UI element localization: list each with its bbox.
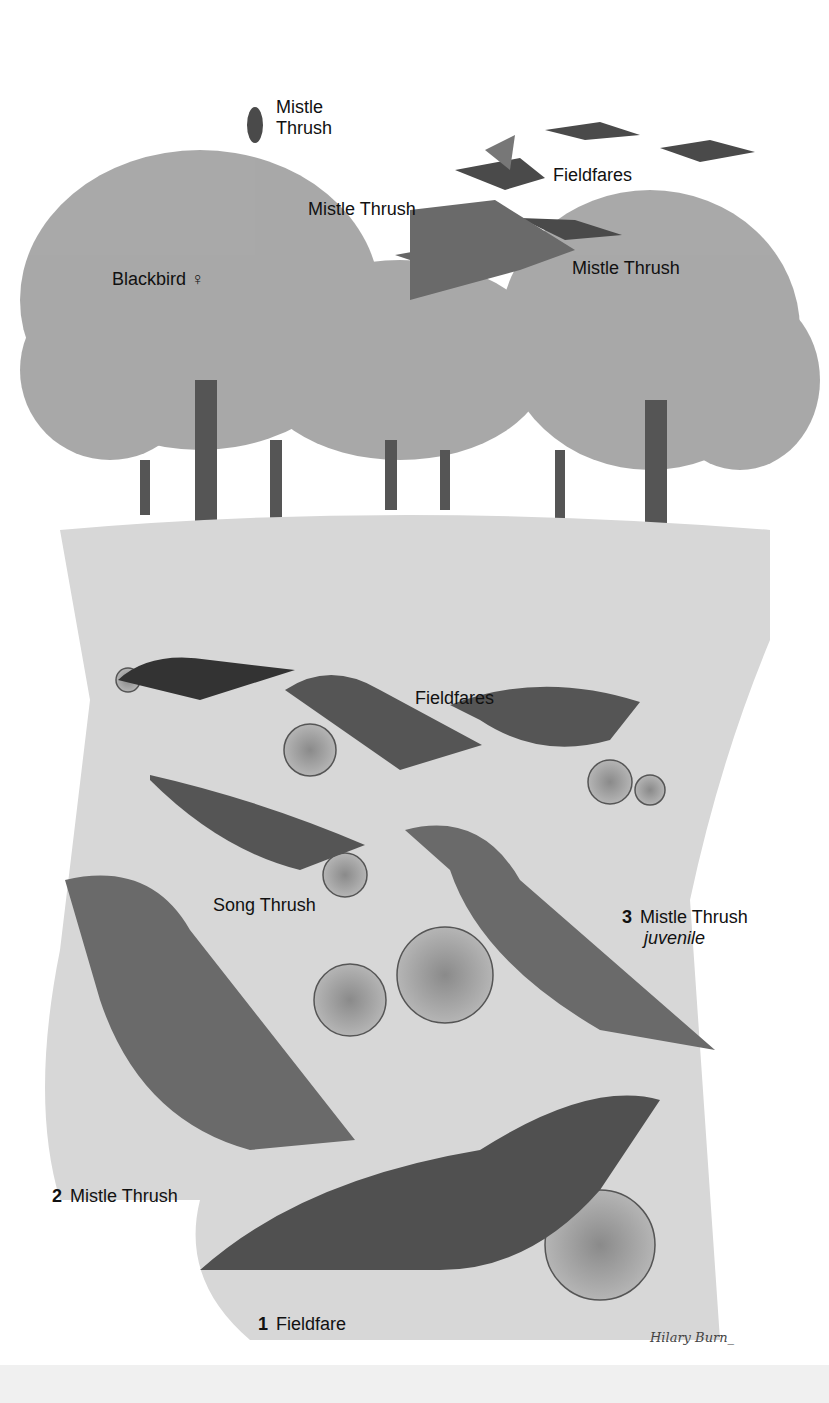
label-mistle-thrush-flying-mid: Mistle Thrush — [572, 258, 680, 279]
label-song-thrush: Song Thrush — [213, 895, 316, 916]
label-fieldfares-flying: Fieldfares — [553, 165, 632, 186]
label-line-1: Mistle — [276, 97, 332, 118]
illustration-plate: Mistle Thrush Fieldfares Mistle Thrush M… — [0, 0, 829, 1403]
label-fieldfares-ground: Fieldfares — [415, 688, 494, 709]
label-fieldfare-1: 1Fieldfare — [258, 1314, 346, 1335]
tree-canopy — [20, 150, 820, 470]
plate-number-2: 2 — [52, 1186, 62, 1206]
bottom-margin — [0, 1365, 829, 1403]
age-note: juvenile — [622, 928, 748, 949]
species-name: Mistle Thrush — [640, 907, 748, 927]
species-name: Fieldfare — [276, 1314, 346, 1334]
label-mistle-thrush-juvenile: 3Mistle Thrush juvenile — [622, 907, 748, 949]
species-name: Mistle Thrush — [70, 1186, 178, 1206]
label-line-2: Thrush — [276, 118, 332, 139]
label-blackbird-female: Blackbird ♀ — [112, 269, 205, 290]
label-mistle-thrush-2: 2Mistle Thrush — [52, 1186, 178, 1207]
plate-number-1: 1 — [258, 1314, 268, 1334]
artist-signature: Hilary Burn_ — [650, 1330, 734, 1345]
label-mistle-thrush-flying-top: Mistle Thrush — [308, 199, 416, 220]
plate-number-3: 3 — [622, 907, 632, 927]
label-mistle-thrush-perched: Mistle Thrush — [276, 97, 332, 139]
